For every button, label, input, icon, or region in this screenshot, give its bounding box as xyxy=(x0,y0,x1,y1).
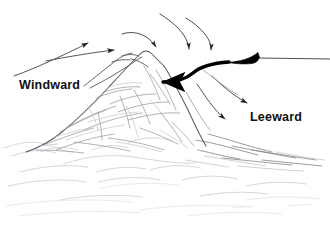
leeward-arrow-faint-2 xyxy=(203,70,238,95)
bold-arrow-wedge xyxy=(228,53,260,64)
windward-label: Windward xyxy=(19,78,80,92)
crest-arrow-3 xyxy=(186,18,211,50)
mountain-shading-faint xyxy=(40,83,188,152)
diagram-canvas: Windward Leeward xyxy=(0,0,330,228)
crest-airflow-arrows xyxy=(122,14,211,50)
leeward-airflow-arrows xyxy=(186,70,247,130)
windward-airflow-arrows xyxy=(14,43,114,76)
leeward-ridge-strokes xyxy=(196,134,322,166)
bold-arrow-curve xyxy=(163,62,229,82)
windward-arrow-upper xyxy=(46,50,114,61)
crest-arrow-2 xyxy=(160,14,189,49)
leeward-label: Leeward xyxy=(250,110,302,124)
crest-arrow-1 xyxy=(122,33,156,47)
leeward-arrow-lower xyxy=(197,84,225,119)
bold-descending-airflow-arrow xyxy=(163,53,330,83)
foreground-terrain-faint xyxy=(6,183,320,216)
windward-arrow-lower xyxy=(14,43,88,76)
bold-arrow-tail-line xyxy=(258,58,330,59)
